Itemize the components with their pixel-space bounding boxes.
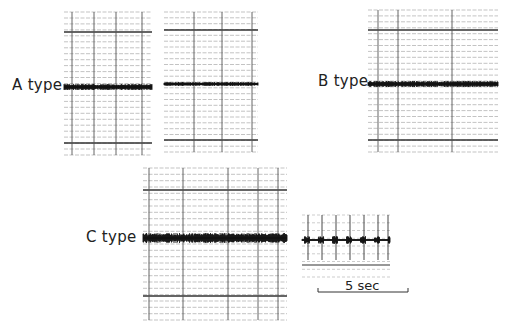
scale-bar-label: 5 sec (345, 278, 379, 293)
scale-bar (0, 0, 506, 332)
